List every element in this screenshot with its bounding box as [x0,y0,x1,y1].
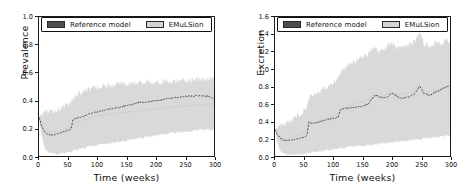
legend-item-reference-model: Reference model [47,21,131,29]
x-tick-label: 200 [382,161,402,169]
y-tick-label: 0.6 [11,69,33,77]
x-tick-label: 300 [441,161,461,169]
y-tick-label: 1.6 [247,13,269,21]
x-tick-label: 50 [294,161,314,169]
x-tick-label: 250 [176,161,196,169]
legend-item-emulsion: EMuLSion [146,21,204,29]
band-emulsion-prevalence [39,76,214,155]
panel-excretion: Excretion 0.0 0.2 0.4 0.6 0.8 1.0 1.2 1.… [234,0,468,193]
y-tick-label: 1.4 [247,30,269,38]
legend-label-reference-model: Reference model [306,21,367,29]
y-tick-label: 0.4 [11,97,33,105]
x-tick-label: 100 [323,161,343,169]
x-tick-label: 150 [353,161,373,169]
y-tick-label: 1.0 [247,66,269,74]
plot-area-prevalence [38,16,215,157]
plot-svg-prevalence [39,17,214,156]
legend-swatch-reference-model [283,21,301,28]
legend-label-emulsion: EMuLSion [405,21,440,29]
legend-swatch-emulsion [146,21,164,28]
x-axis-label-prevalence: Time (weeks) [38,172,215,183]
x-tick-label: 0 [28,161,48,169]
x-tick-label: 250 [412,161,432,169]
plot-area-excretion [274,16,451,157]
x-tick-label: 150 [117,161,137,169]
x-axis-label-excretion: Time (weeks) [274,172,451,183]
legend-item-reference-model: Reference model [283,21,367,29]
y-tick-label: 0.6 [247,101,269,109]
legend-swatch-reference-model [47,21,65,28]
y-tick-label: 0.8 [247,83,269,91]
legend-label-reference-model: Reference model [70,21,131,29]
x-tick-label: 100 [87,161,107,169]
panel-prevalence: Prevalence 0.0 0.2 0.4 0.6 0.8 1.0 0 50 … [0,0,234,193]
legend-prevalence: Reference model EMuLSion [41,17,212,32]
y-tick-label: 0.2 [11,125,33,133]
figure-two-panel-timeseries: Prevalence 0.0 0.2 0.4 0.6 0.8 1.0 0 50 … [0,0,468,193]
legend-label-emulsion: EMuLSion [169,21,204,29]
x-tick-label: 200 [146,161,166,169]
x-tick-label: 0 [264,161,284,169]
y-tick-label: 0.8 [11,41,33,49]
y-tick-label: 0.2 [247,136,269,144]
y-tick-label: 0.4 [247,118,269,126]
legend-swatch-emulsion [382,21,400,28]
legend-item-emulsion: EMuLSion [382,21,440,29]
band-emulsion-excretion [275,33,450,156]
y-tick-label: 1.2 [247,48,269,56]
plot-svg-excretion [275,17,450,156]
y-tick-label: 1.0 [11,13,33,21]
x-tick-label: 300 [205,161,225,169]
legend-excretion: Reference model EMuLSion [277,17,448,32]
x-tick-label: 50 [58,161,78,169]
